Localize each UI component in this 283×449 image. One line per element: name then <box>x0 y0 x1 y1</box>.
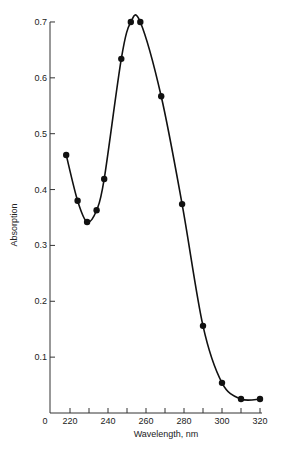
data-point <box>137 19 143 25</box>
x-tick-label: 220 <box>62 416 77 426</box>
data-point <box>200 323 206 329</box>
data-point <box>179 201 185 207</box>
x-tick-label: 260 <box>138 416 153 426</box>
y-tick-label: 0.6 <box>34 73 47 83</box>
data-point <box>238 396 244 402</box>
data-point <box>63 152 69 158</box>
data-points <box>63 19 263 402</box>
y-tick-label: 0.7 <box>34 17 47 27</box>
data-point <box>257 396 263 402</box>
data-point <box>84 219 90 225</box>
x-tick-label: 240 <box>100 416 115 426</box>
data-point <box>118 56 124 62</box>
data-point <box>128 19 134 25</box>
x-tick-label: 280 <box>176 416 191 426</box>
data-point <box>74 198 80 204</box>
data-point <box>93 207 99 213</box>
data-point <box>158 93 164 99</box>
y-tick-label: 0.5 <box>34 129 47 139</box>
y-tick-label: 0.3 <box>34 240 47 250</box>
axes: 0.10.20.30.40.50.60.72202402602803003200 <box>34 17 267 426</box>
x-tick-label: 320 <box>252 416 267 426</box>
y-axis-label: Absorption <box>9 203 19 246</box>
y-tick-label: 0.1 <box>34 352 47 362</box>
data-point <box>101 176 107 182</box>
x-tick-label: 300 <box>214 416 229 426</box>
absorption-chart: 0.10.20.30.40.50.60.72202402602803003200… <box>0 0 283 449</box>
x-axis-label: Wavelength, nm <box>134 429 199 439</box>
y-tick-label: 0.2 <box>34 296 47 306</box>
y-tick-label: 0.4 <box>34 185 47 195</box>
data-point <box>219 380 225 386</box>
origin-label: 0 <box>42 416 47 426</box>
